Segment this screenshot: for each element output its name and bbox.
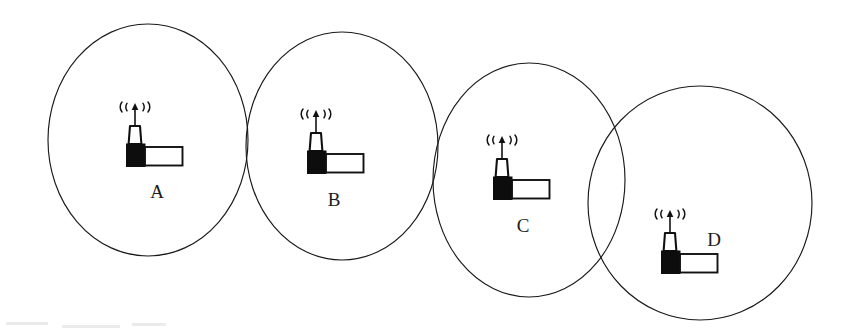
node-a[interactable]: A: [120, 102, 182, 202]
node-label-d: D: [707, 229, 721, 250]
node-b[interactable]: B: [301, 109, 363, 210]
node-label-c: C: [517, 215, 530, 236]
coverage-circle-b: [246, 32, 438, 260]
coverage-circles: [48, 24, 812, 320]
coverage-circle-d: [588, 86, 812, 320]
station-icon-c: [487, 135, 549, 200]
wireless-coverage-diagram: A B C D: [0, 0, 847, 331]
station-icon-b: [301, 109, 363, 174]
node-label-b: B: [328, 189, 341, 210]
station-icon-a: [120, 102, 182, 167]
coverage-circle-a: [48, 24, 248, 256]
node-label-a: A: [150, 181, 164, 202]
node-c[interactable]: C: [487, 135, 549, 236]
scan-artifacts: [6, 322, 166, 328]
diagram-canvas: A B C D: [0, 0, 847, 331]
node-d[interactable]: D: [655, 209, 721, 274]
